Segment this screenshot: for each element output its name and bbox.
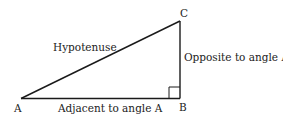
vertex-label-a: A — [13, 102, 22, 114]
vertex-label-b: B — [179, 101, 187, 113]
hypotenuse-label: Hypotenuse — [53, 41, 117, 53]
hypotenuse-side — [21, 21, 180, 99]
right-triangle-diagram: A B C Hypotenuse Opposite to angle A Adj… — [0, 0, 283, 119]
opposite-label: Opposite to angle A — [184, 51, 283, 63]
vertex-label-c: C — [180, 7, 188, 19]
triangle — [21, 21, 180, 99]
right-angle-marker — [169, 87, 180, 99]
adjacent-label: Adjacent to angle A — [57, 102, 163, 114]
